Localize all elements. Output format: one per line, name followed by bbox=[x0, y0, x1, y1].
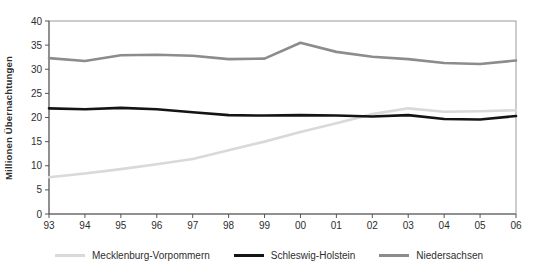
x-tick-label: 98 bbox=[223, 220, 235, 231]
y-tick-label: 25 bbox=[31, 88, 43, 99]
x-tick-label: 03 bbox=[403, 220, 415, 231]
x-tick-label: 00 bbox=[295, 220, 307, 231]
series-line-schleswig-holstein bbox=[49, 108, 516, 120]
x-tick-label: 04 bbox=[439, 220, 451, 231]
legend-label: Mecklenburg-Vorpommern bbox=[92, 250, 210, 261]
legend-item-schleswig-holstein: Schleswig-Holstein bbox=[234, 250, 355, 261]
chart-figure: 0510152025303540939495969798990001020304… bbox=[0, 0, 537, 276]
x-tick-label: 02 bbox=[367, 220, 379, 231]
x-tick-label: 06 bbox=[510, 220, 522, 231]
y-tick-label: 40 bbox=[31, 16, 43, 27]
x-tick-label: 05 bbox=[475, 220, 487, 231]
legend-label: Schleswig-Holstein bbox=[271, 250, 355, 261]
series-line-niedersachsen bbox=[49, 43, 516, 64]
x-tick-label: 95 bbox=[115, 220, 127, 231]
x-tick-label: 99 bbox=[259, 220, 271, 231]
y-tick-label: 35 bbox=[31, 40, 43, 51]
x-tick-label: 97 bbox=[187, 220, 199, 231]
x-tick-label: 01 bbox=[331, 220, 343, 231]
x-tick-label: 93 bbox=[43, 220, 55, 231]
legend-item-niedersachsen: Niedersachsen bbox=[379, 250, 483, 261]
chart-legend: Mecklenburg-Vorpommern Schleswig-Holstei… bbox=[0, 245, 537, 265]
legend-label: Niedersachsen bbox=[416, 250, 483, 261]
legend-line-swatch-gray bbox=[379, 254, 409, 257]
y-tick-label: 15 bbox=[31, 136, 43, 147]
legend-item-mecklenburg-vorpommern: Mecklenburg-Vorpommern bbox=[55, 250, 210, 261]
y-tick-label: 10 bbox=[31, 160, 43, 171]
y-axis-title: Millionen Übernachtungen bbox=[3, 21, 14, 214]
legend-line-swatch-light-gray bbox=[55, 254, 85, 257]
y-tick-label: 5 bbox=[36, 184, 42, 195]
y-tick-label: 30 bbox=[31, 64, 43, 75]
x-tick-label: 96 bbox=[151, 220, 163, 231]
y-tick-label: 20 bbox=[31, 112, 43, 123]
y-tick-label: 0 bbox=[36, 209, 42, 220]
line-chart-canvas: 0510152025303540939495969798990001020304… bbox=[0, 0, 537, 244]
legend-line-swatch-black bbox=[234, 254, 264, 257]
x-tick-label: 94 bbox=[79, 220, 91, 231]
